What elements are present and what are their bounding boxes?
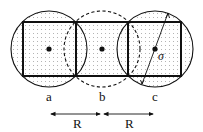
center-dot-a bbox=[46, 46, 51, 51]
center-dot-b bbox=[99, 46, 104, 51]
label-b: b bbox=[99, 89, 106, 104]
center-dot-c bbox=[152, 46, 157, 51]
label-a: a bbox=[46, 89, 52, 104]
label-c: c bbox=[152, 89, 158, 104]
distance-label-bc: R bbox=[125, 116, 134, 131]
lattice-diagram: σ a b c R R bbox=[0, 0, 203, 132]
distance-label-ab: R bbox=[73, 116, 82, 131]
